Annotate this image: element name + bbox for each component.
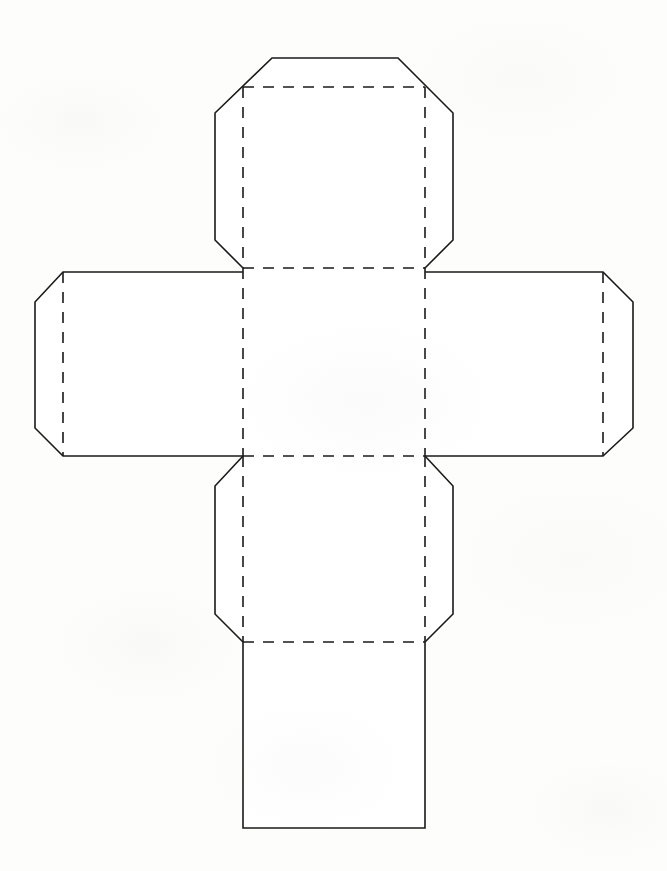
- bottom-panel-fill: [215, 456, 453, 642]
- base-panel-fill: [243, 642, 425, 828]
- page-sheet: [0, 0, 667, 871]
- center-panel-fill: [243, 268, 425, 456]
- right-panel-fill: [425, 272, 633, 456]
- top-panel-fill: [215, 58, 453, 268]
- cube-net-diagram: [0, 0, 667, 871]
- left-panel-fill: [35, 272, 243, 456]
- panel-fills: [35, 58, 633, 828]
